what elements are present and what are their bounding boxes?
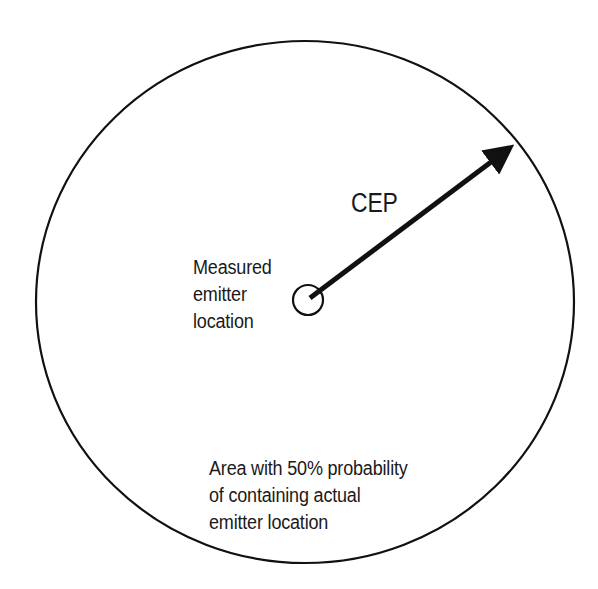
measured-emitter-location-label: Measured emitter location: [193, 254, 272, 335]
area-label-line-2: of containing actual: [209, 482, 408, 509]
measured-label-line-2: emitter: [193, 281, 272, 308]
area-label-line-1: Area with 50% probability: [209, 455, 408, 482]
probability-area-label: Area with 50% probability of containing …: [209, 455, 408, 536]
area-label-line-3: emitter location: [209, 509, 408, 536]
measured-label-line-3: location: [193, 308, 272, 335]
cep-radius-arrow: [310, 150, 507, 298]
measured-label-line-1: Measured: [193, 254, 272, 281]
cep-label: CEP: [351, 188, 398, 219]
